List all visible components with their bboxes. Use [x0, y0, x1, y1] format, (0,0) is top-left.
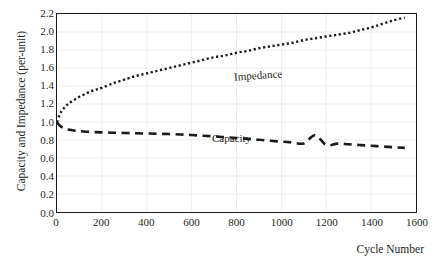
plot-area: Impedance Capacity [56, 13, 417, 213]
y-axis-tick-label: 0.2 [22, 189, 54, 200]
x-axis-tick-label: 1400 [361, 216, 383, 229]
x-axis-title: Cycle Number [0, 243, 424, 255]
x-axis-tick-label: 0 [53, 216, 59, 229]
series-path-impedance [57, 18, 405, 122]
y-axis-tick-label: 1.6 [22, 62, 54, 73]
x-axis-tick-labels: 02004006008001000120014001600 [0, 216, 438, 232]
series-layer [57, 14, 416, 212]
y-axis-tick-label: 0.4 [22, 171, 54, 182]
y-axis-tick-label: 0.8 [22, 135, 54, 146]
x-axis-tick-label: 1600 [406, 216, 428, 229]
y-axis-tick-label: 2.0 [22, 26, 54, 37]
x-axis-tick-label: 1200 [316, 216, 338, 229]
x-axis-tick-label: 800 [228, 216, 245, 229]
y-axis-tick-label: 1.8 [22, 44, 54, 55]
y-axis-tick-label: 0.6 [22, 153, 54, 164]
y-axis-tick-label: 1.0 [22, 117, 54, 128]
series-label-capacity: Capacity [212, 132, 251, 144]
x-axis-tick-label: 200 [93, 216, 110, 229]
clipped-caption-remnant [0, 0, 438, 5]
y-axis-tick-label: 1.2 [22, 98, 54, 109]
x-axis-tick-label: 600 [183, 216, 200, 229]
y-axis-tick-label: 1.4 [22, 80, 54, 91]
y-axis-tick-label: 2.2 [22, 8, 54, 19]
x-axis-tick-label: 1000 [271, 216, 293, 229]
chart-figure: Capacity and Impedance (per-unit) 0.00.2… [0, 0, 438, 268]
x-axis-tick-label: 400 [138, 216, 155, 229]
